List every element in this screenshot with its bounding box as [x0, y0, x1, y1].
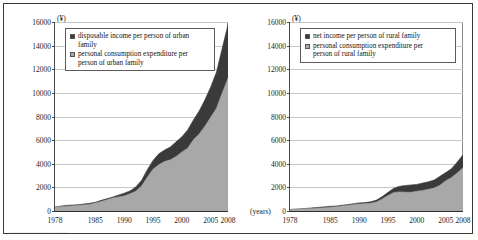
y-axis-tick-label: 16000: [32, 18, 51, 27]
legend-label-line2: family: [78, 41, 189, 50]
legend-rural: net income per person of rural family pe…: [300, 28, 456, 63]
x-axis-tick-label: 2008: [221, 216, 236, 225]
y-axis-tick-label: 2000: [36, 183, 51, 192]
legend-label-line1: personal consumption expenditure per: [313, 42, 423, 50]
y-axis-tick-label: 6000: [271, 136, 286, 145]
y-axis-tick: [287, 211, 290, 212]
x-axis-tick-label: 1990: [352, 216, 367, 225]
y-axis-tick-label: 4000: [36, 159, 51, 168]
x-axis-tick-label: 1978: [48, 216, 63, 225]
x-axis-tick-label: 2005: [438, 216, 453, 225]
y-axis-tick-label: 0: [47, 207, 51, 216]
y-axis-tick-label: 6000: [36, 136, 51, 145]
legend-label: personal consumption expenditure per per…: [78, 50, 188, 67]
legend-label-line1: disposable income per person of urban: [78, 32, 189, 40]
x-axis-tick-label: 1995: [381, 216, 396, 225]
legend-label: personal consumption expenditure per per…: [313, 42, 423, 59]
x-axis-tick-label: 1990: [117, 216, 132, 225]
legend-swatch-disposable-income-urban: [70, 34, 75, 39]
y-axis-tick-label: 4000: [271, 159, 286, 168]
legend-label: net income per person of rural family: [313, 32, 420, 41]
scanned-chart-page: (¥) 020004000600080001000012000140001600…: [0, 0, 478, 240]
y-axis-tick-label: 12000: [32, 65, 51, 74]
legend-swatch-net-income-rural: [305, 34, 310, 39]
x-axis-tick-label: 1985: [323, 216, 338, 225]
x-axis-tick-label: 2000: [174, 216, 189, 225]
legend-item: personal consumption expenditure per per…: [305, 42, 451, 59]
y-axis-tick-label: 14000: [267, 41, 286, 50]
area-personal-consumption-expenditure-per-person-of-rural-family: [290, 168, 463, 211]
y-axis-tick: [52, 211, 55, 212]
x-axis-tick-label: 2000: [409, 216, 424, 225]
y-axis-tick-label: 2000: [271, 183, 286, 192]
legend-item: net income per person of rural family: [305, 32, 451, 41]
cut-off-footer-text: .................................: [10, 228, 310, 234]
legend-label-line2: person of rural family: [313, 50, 423, 59]
y-axis-tick-label: 8000: [36, 112, 51, 121]
area-personal-consumption-expenditure-per-person-of-urban-family: [55, 78, 228, 211]
legend-label-line1: personal consumption expenditure per: [78, 50, 188, 58]
page-frame: (¥) 020004000600080001000012000140001600…: [3, 3, 473, 234]
legend-swatch-consumption-expenditure-rural: [305, 44, 310, 49]
x-axis-tick-label: 2005: [203, 216, 218, 225]
x-axis-years-label-rural: (years): [250, 207, 271, 216]
y-axis-tick-label: 8000: [271, 112, 286, 121]
x-axis-tick-label: 1985: [88, 216, 103, 225]
legend-label: disposable income per person of urban fa…: [78, 32, 189, 49]
chart-urban: (¥) 020004000600080001000012000140001600…: [9, 12, 237, 230]
chart-rural: (¥) 020004000600080001000012000140001600…: [244, 12, 472, 230]
legend-urban: disposable income per person of urban fa…: [65, 28, 215, 71]
legend-label-line1: net income per person of rural family: [313, 32, 420, 40]
y-axis-tick-label: 10000: [267, 88, 286, 97]
y-axis-tick-label: 0: [282, 207, 286, 216]
legend-label-line2: person of urban family: [78, 59, 188, 68]
legend-item: personal consumption expenditure per per…: [70, 50, 210, 67]
y-axis-tick-label: 12000: [267, 65, 286, 74]
x-axis-tick-label: 1995: [146, 216, 161, 225]
y-axis-tick-label: 14000: [32, 41, 51, 50]
y-axis-tick-label: 16000: [267, 18, 286, 27]
x-axis-tick-label: 2008: [456, 216, 471, 225]
y-axis-tick-label: 10000: [32, 88, 51, 97]
x-axis-tick-label: 1978: [283, 216, 298, 225]
legend-item: disposable income per person of urban fa…: [70, 32, 210, 49]
legend-swatch-consumption-expenditure-urban: [70, 52, 75, 57]
